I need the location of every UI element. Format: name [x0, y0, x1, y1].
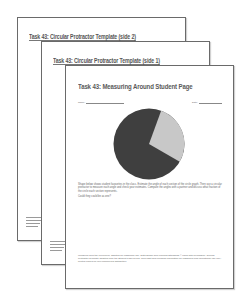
document-page-student: Task 43: Measuring Around Student Page N…: [65, 65, 234, 289]
date-field[interactable]: Date:: [192, 101, 222, 104]
page-title: Task 43: Circular Protractor Template (s…: [53, 57, 160, 64]
page-footer: Measures from the curriculum, adapted fo…: [78, 254, 224, 264]
name-field[interactable]: Name:: [78, 101, 124, 104]
page-title: Task 43: Measuring Around Student Page: [78, 82, 193, 91]
date-label: Date:: [192, 101, 198, 104]
date-input-line[interactable]: [199, 102, 222, 104]
instructions-text: Shape below shows student favourites in …: [78, 183, 224, 201]
question-text: Could they could be as one?: [78, 195, 224, 198]
name-input-line[interactable]: [86, 102, 124, 104]
name-label: Name:: [78, 101, 85, 104]
pie-chart: [113, 108, 185, 180]
page-title: Task 43: Circular Protractor Template (s…: [29, 33, 136, 40]
instructions-paragraph: Shape below shows student favourites in …: [78, 183, 224, 193]
